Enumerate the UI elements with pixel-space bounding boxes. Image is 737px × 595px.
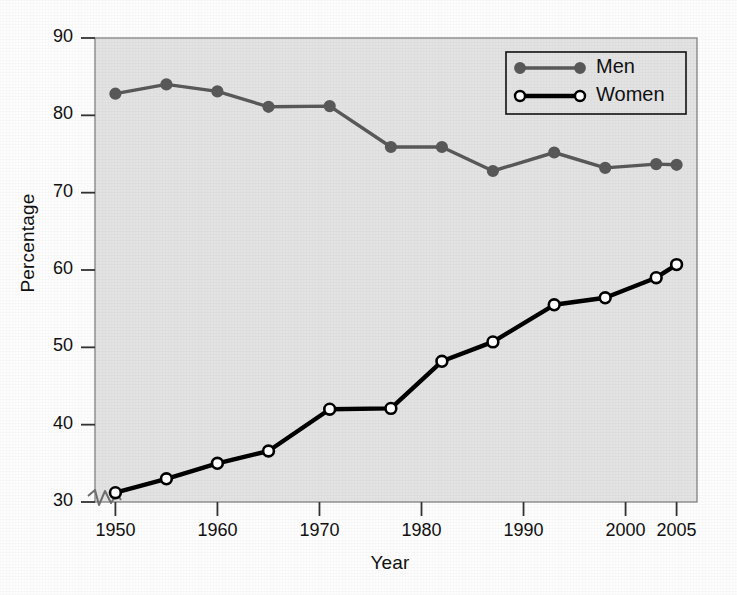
data-point bbox=[161, 79, 171, 89]
legend-item-women: Women bbox=[596, 83, 665, 106]
data-point bbox=[549, 147, 559, 157]
data-point bbox=[671, 259, 682, 270]
data-point bbox=[488, 166, 498, 176]
y-tick-label: 80 bbox=[27, 103, 73, 124]
data-point bbox=[263, 102, 273, 112]
y-tick-label: 40 bbox=[27, 413, 73, 434]
data-point bbox=[600, 163, 610, 173]
y-tick-label: 50 bbox=[27, 335, 73, 356]
x-tick-label: 1980 bbox=[392, 520, 452, 541]
y-tick-label: 90 bbox=[27, 26, 73, 47]
legend-item-men: Men bbox=[596, 55, 635, 78]
legend-swatch-marker bbox=[515, 91, 525, 101]
data-point bbox=[651, 272, 662, 283]
data-point bbox=[324, 404, 335, 415]
y-tick-label: 30 bbox=[27, 490, 73, 511]
data-point bbox=[549, 299, 560, 310]
data-point bbox=[212, 86, 222, 96]
data-point bbox=[325, 101, 335, 111]
data-point bbox=[386, 403, 397, 414]
x-tick-label: 1970 bbox=[289, 520, 349, 541]
x-axis-title: Year bbox=[330, 552, 450, 574]
data-point bbox=[161, 473, 172, 484]
y-tick-label: 70 bbox=[27, 181, 73, 202]
chart-figure: Percentage Year 304050607080901950196019… bbox=[0, 0, 737, 595]
x-tick-label: 1950 bbox=[85, 520, 145, 541]
y-axis-ticks bbox=[81, 38, 95, 502]
legend-swatch-marker bbox=[575, 91, 585, 101]
x-tick-label: 1990 bbox=[494, 520, 554, 541]
data-point bbox=[110, 89, 120, 99]
y-tick-label: 60 bbox=[27, 258, 73, 279]
x-axis-ticks bbox=[115, 502, 676, 516]
legend-swatch-marker bbox=[515, 63, 525, 73]
data-point bbox=[212, 458, 223, 469]
data-point bbox=[437, 142, 447, 152]
data-point bbox=[600, 292, 611, 303]
data-point bbox=[263, 446, 274, 457]
data-point bbox=[386, 142, 396, 152]
data-point bbox=[437, 356, 448, 367]
data-point bbox=[110, 487, 121, 498]
x-tick-label: 2005 bbox=[647, 520, 707, 541]
data-point bbox=[488, 337, 499, 348]
data-point bbox=[671, 160, 681, 170]
x-tick-label: 1960 bbox=[187, 520, 247, 541]
data-point bbox=[651, 159, 661, 169]
legend-swatch-marker bbox=[575, 63, 585, 73]
